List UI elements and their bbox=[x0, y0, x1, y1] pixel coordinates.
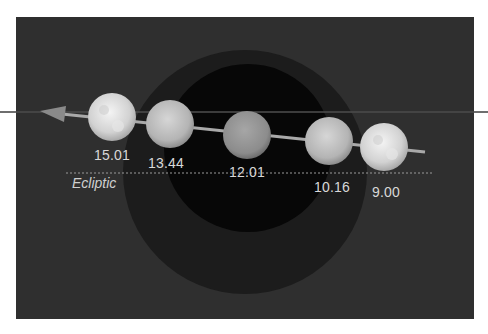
moon-12-01 bbox=[223, 111, 271, 159]
moon-13-44 bbox=[146, 100, 194, 148]
time-label-10-16: 10.16 bbox=[314, 179, 350, 195]
direction-arrow-icon bbox=[40, 106, 66, 122]
time-label-9-00: 9.00 bbox=[372, 184, 400, 200]
eclipse-diagram: 15.01 13.44 12.01 10.16 9.00 Ecliptic bbox=[0, 0, 488, 334]
ecliptic-label: Ecliptic bbox=[72, 175, 116, 191]
time-label-15-01: 15.01 bbox=[94, 147, 130, 163]
time-label-13-44: 13.44 bbox=[148, 155, 184, 171]
moon-10-16 bbox=[305, 117, 353, 165]
time-label-12-01: 12.01 bbox=[229, 164, 265, 180]
moon-15-01 bbox=[88, 93, 136, 141]
moon-9-00 bbox=[360, 123, 408, 171]
